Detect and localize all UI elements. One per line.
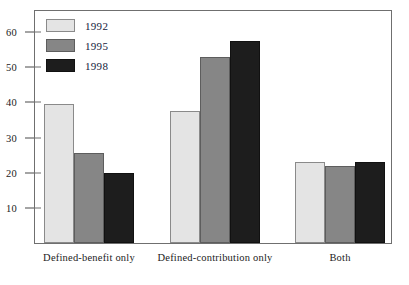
x-axis-category-label: Defined-benefit only (43, 252, 135, 263)
bar (230, 41, 260, 243)
x-axis-category-label: Defined-contribution only (158, 252, 273, 263)
bar-chart: 102030405060 1992 1995 1998 Defined-bene… (0, 0, 409, 285)
y-axis-tick-label: 60 (6, 27, 17, 38)
y-axis-inner-tick (35, 67, 41, 68)
bar (44, 104, 74, 243)
legend-item: 1998 (46, 56, 156, 75)
legend-swatch-icon (46, 19, 75, 32)
bar (74, 153, 104, 243)
y-axis-inner-tick (35, 172, 41, 173)
legend-item-label: 1995 (85, 40, 108, 52)
y-axis-tick-label: 30 (6, 132, 17, 143)
y-axis: 102030405060 (0, 0, 34, 285)
legend-swatch-icon (46, 59, 75, 72)
legend: 1992 1995 1998 (46, 16, 156, 76)
legend-item-label: 1998 (85, 60, 108, 72)
x-axis-category-label: Both (329, 252, 350, 263)
y-axis-tick-mark (25, 102, 34, 103)
bar (325, 166, 355, 243)
bar (104, 173, 134, 243)
legend-swatch-icon (46, 39, 75, 52)
y-axis-tick-mark (25, 172, 34, 173)
y-axis-inner-tick (35, 102, 41, 103)
bar (200, 57, 230, 243)
x-axis-labels: Defined-benefit onlyDefined-contribution… (34, 252, 392, 276)
y-axis-tick-label: 10 (6, 202, 17, 213)
y-axis-tick-mark (25, 137, 34, 138)
y-axis-tick-mark (25, 67, 34, 68)
y-axis-tick-label: 20 (6, 167, 17, 178)
bar (355, 162, 385, 243)
y-axis-tick-mark (25, 32, 34, 33)
legend-item: 1995 (46, 36, 156, 55)
bar (295, 162, 325, 243)
y-axis-inner-tick (35, 32, 41, 33)
legend-item-label: 1992 (85, 20, 108, 32)
legend-item: 1992 (46, 16, 156, 35)
bar (170, 111, 200, 243)
y-axis-tick-mark (25, 207, 34, 208)
y-axis-inner-tick (35, 137, 41, 138)
y-axis-inner-tick (35, 207, 41, 208)
y-axis-tick-label: 40 (6, 97, 17, 108)
y-axis-tick-label: 50 (6, 62, 17, 73)
